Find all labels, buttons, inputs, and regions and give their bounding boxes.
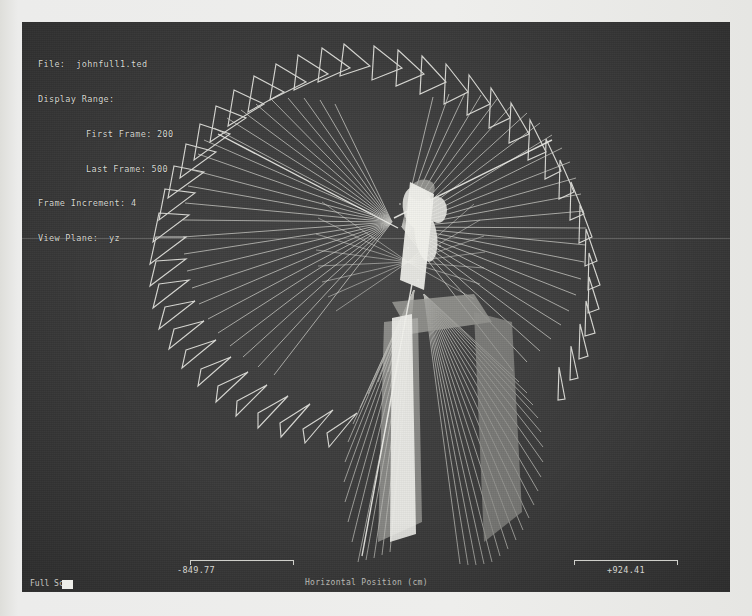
screenshot-root: File: johnfull1.ted Display Range: First…	[0, 0, 752, 616]
leg-highlight	[390, 314, 416, 542]
axis-min-value: -849.77	[177, 565, 215, 575]
axis-title: Horizontal Position (cm)	[305, 578, 428, 587]
axis-tick-bar-right	[574, 560, 678, 561]
meta-line-frame-increment: Frame Increment: 4	[38, 198, 173, 210]
axis-max-value: +924.41	[607, 565, 645, 575]
meta-line-first-frame: First Frame: 200	[38, 129, 173, 141]
meta-line-last-frame: Last Frame: 500	[38, 164, 173, 176]
axis-tick-right-start	[574, 560, 575, 565]
plot-canvas[interactable]: File: johnfull1.ted Display Range: First…	[22, 22, 730, 592]
meta-line-display-range: Display Range:	[38, 94, 173, 106]
corner-scale-label: Full Sc	[30, 579, 64, 588]
shaft-fan-mid	[316, 202, 485, 311]
axis-tick-right-end	[677, 560, 678, 565]
axis-tick-bar-left	[190, 560, 294, 561]
meta-line-file: File: johnfull1.ted	[38, 59, 173, 71]
metadata-overlay: File: johnfull1.ted Display Range: First…	[38, 36, 173, 268]
horizontal-axis: -849.77 +924.41 Horizontal Position (cm)	[22, 552, 730, 592]
axis-tick-left-end	[293, 560, 294, 565]
leg-plate-right	[474, 312, 522, 542]
corner-color-swatch[interactable]	[62, 580, 73, 589]
meta-line-view-plane: View Plane: yz	[38, 233, 173, 245]
